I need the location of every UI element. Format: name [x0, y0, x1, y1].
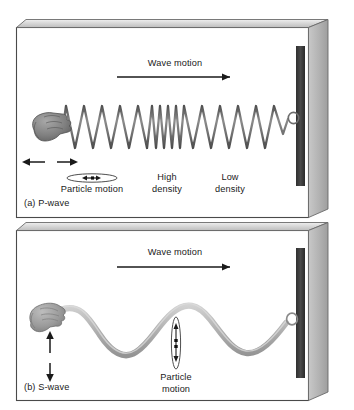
wall-anchor-plate-icon	[296, 46, 305, 186]
caption-p-wave: (a) P-wave	[24, 198, 69, 208]
particle-motion-label-b-line1: Particle	[152, 372, 200, 383]
panel-a-top-band	[17, 20, 329, 28]
wave-motion-label-b: Wave motion	[120, 247, 230, 257]
panel-b-side-wall	[309, 223, 329, 401]
low-density-label-line2: density	[206, 184, 254, 195]
low-density-label-line1: Low	[206, 172, 254, 183]
panel-a-side-wall	[309, 20, 329, 218]
panel-b-top-band	[17, 223, 329, 231]
particle-motion-label-a: Particle motion	[42, 184, 142, 194]
high-density-label-line1: High	[143, 172, 191, 183]
caption-s-wave: (b) S-wave	[24, 382, 69, 392]
wall-anchor-plate-icon	[296, 248, 305, 378]
panel-p-wave: Wave motion Particle motion High density…	[0, 14, 354, 219]
figure-wave-types: Wave motion Particle motion High density…	[0, 0, 354, 410]
particle-motion-label-b-line2: motion	[152, 384, 200, 395]
high-density-label-line2: density	[143, 184, 191, 195]
panel-s-wave: Wave motion Particle motion (b) S-wave	[0, 219, 354, 404]
wave-motion-label-a: Wave motion	[120, 58, 230, 68]
